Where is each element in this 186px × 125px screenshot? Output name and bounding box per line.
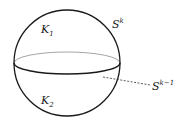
equator-back-arc	[14, 52, 120, 63]
label-sphere: Sk	[112, 17, 124, 31]
label-k1: K1	[40, 23, 54, 38]
equator-leader-line	[103, 77, 150, 85]
label-k2: K2	[40, 94, 54, 109]
sphere-diagram: K1 K2 Sk Sk−1	[0, 0, 186, 125]
equator-front-arc	[14, 63, 120, 74]
sphere-outline	[14, 10, 120, 116]
label-equator: Sk−1	[152, 79, 174, 93]
